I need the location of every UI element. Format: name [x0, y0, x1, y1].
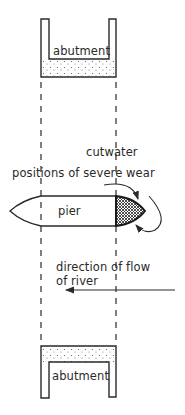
diagram-canvas: abutment abutment pier cutwater position… — [0, 0, 185, 415]
cutwater-label: cutwater — [86, 145, 138, 159]
bottom-abutment-label: abutment — [52, 369, 109, 383]
pier-label: pier — [58, 204, 81, 218]
pier-diagram: abutment abutment pier cutwater position… — [0, 0, 185, 415]
cutwater — [116, 196, 145, 226]
bottom-abutment-fill — [41, 346, 116, 362]
flow-label-line2: of river — [56, 274, 98, 288]
flow-label-line1: direction of flow — [56, 260, 150, 274]
top-abutment-fill — [41, 60, 116, 77]
wear-label: positions of severe wear — [12, 166, 155, 180]
top-abutment-label: abutment — [53, 44, 110, 58]
